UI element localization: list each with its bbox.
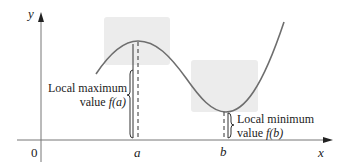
local-min-highlight-box [191,60,258,112]
local-max-line1: Local maximum [48,81,126,95]
local-min-brace-icon [228,113,234,138]
y-axis-label: y [28,6,34,22]
local-min-line1: Local minimum [237,112,314,126]
y-axis-arrow-icon [38,12,44,22]
local-min-line2: value f(b) [237,126,314,140]
local-min-func: f(b) [266,126,283,140]
local-max-func: f(a) [109,95,126,109]
x-axis-arrow-icon [323,137,333,143]
point-b-label: b [220,144,227,160]
origin-label: 0 [31,145,38,161]
local-max-line2: value f(a) [48,95,126,109]
x-axis-label: x [318,145,324,161]
local-max-annotation: Local maximum value f(a) [48,81,126,109]
local-min-annotation: Local minimum value f(b) [237,112,314,140]
point-a-label: a [134,145,141,161]
local-max-brace-icon [127,70,133,138]
